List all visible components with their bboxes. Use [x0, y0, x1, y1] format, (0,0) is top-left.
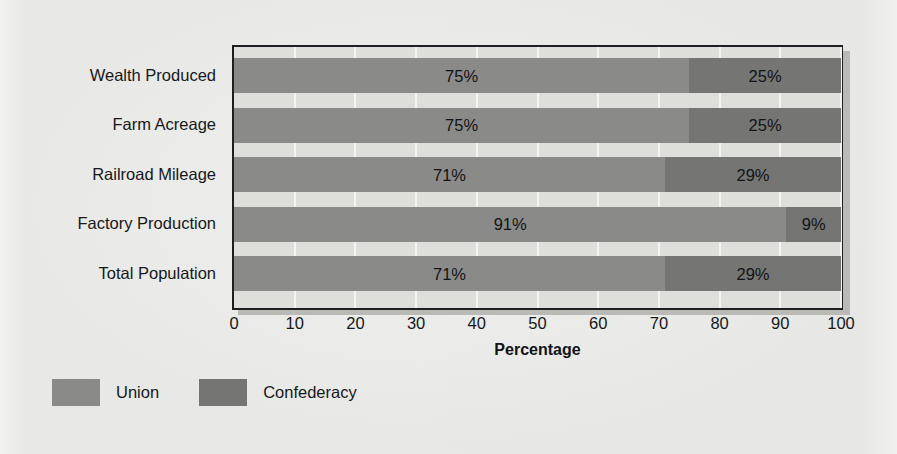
x-tick-label: 80 — [710, 315, 728, 332]
category-label-total-population: Total Population — [16, 265, 216, 282]
category-label-wealth-produced: Wealth Produced — [16, 67, 216, 84]
x-tick-label: 70 — [650, 315, 668, 332]
bar-segment-confederacy: 9% — [786, 207, 841, 242]
bar-value-label: 29% — [665, 166, 841, 183]
bar-segment-confederacy: 25% — [689, 108, 841, 143]
bar-value-label: 29% — [665, 265, 841, 282]
bar-segment-union: 75% — [234, 108, 689, 143]
legend-label: Union — [116, 384, 159, 401]
bar-value-label: 25% — [689, 67, 841, 84]
bar-row: 75%25% — [234, 58, 841, 93]
bar-segment-confederacy: 25% — [689, 58, 841, 93]
x-tick-label: 60 — [589, 315, 607, 332]
chart-legend: UnionConfederacy — [52, 375, 397, 409]
x-tick-label: 90 — [771, 315, 789, 332]
bar-segment-confederacy: 29% — [665, 157, 841, 192]
bar-row: 71%29% — [234, 256, 841, 291]
category-label-railroad-mileage: Railroad Mileage — [16, 166, 216, 183]
legend-swatch-confederacy — [199, 379, 247, 406]
bar-row: 71%29% — [234, 157, 841, 192]
x-tick-label: 40 — [468, 315, 486, 332]
bar-value-label: 71% — [234, 265, 665, 282]
category-axis-labels: Wealth ProducedFarm AcreageRailroad Mile… — [18, 52, 224, 304]
bar-segment-union: 71% — [234, 256, 665, 291]
bar-row: 75%25% — [234, 108, 841, 143]
bar-value-label: 75% — [234, 67, 689, 84]
bar-value-label: 91% — [234, 216, 786, 233]
bar-value-label: 71% — [234, 166, 665, 183]
bar-segment-union: 91% — [234, 207, 786, 242]
x-tick-label: 10 — [286, 315, 304, 332]
category-label-factory-production: Factory Production — [16, 215, 216, 232]
bar-value-label: 9% — [786, 216, 841, 233]
x-tick-label: 20 — [346, 315, 364, 332]
bar-segment-union: 75% — [234, 58, 689, 93]
x-tick-label: 0 — [229, 315, 238, 332]
bar-segment-union: 71% — [234, 157, 665, 192]
x-tick-label: 50 — [528, 315, 546, 332]
bar-value-label: 25% — [689, 117, 841, 134]
bar-series-group: 75%25%75%25%71%29%91%9%71%29% — [234, 47, 841, 308]
x-tick-label: 100 — [827, 315, 855, 332]
legend-label: Confederacy — [263, 384, 357, 401]
legend-item-union: Union — [52, 379, 159, 406]
bar-segment-confederacy: 29% — [665, 256, 841, 291]
category-label-farm-acreage: Farm Acreage — [16, 116, 216, 133]
plot-area: 75%25%75%25%71%29%91%9%71%29% — [232, 45, 843, 310]
legend-swatch-union — [52, 379, 100, 406]
x-axis-tick-labels: 0102030405060708090100 — [232, 315, 843, 339]
bar-row: 91%9% — [234, 207, 841, 242]
legend-item-confederacy: Confederacy — [199, 379, 357, 406]
x-tick-label: 30 — [407, 315, 425, 332]
x-axis-title: Percentage — [232, 342, 843, 358]
chart-page: Wealth ProducedFarm AcreageRailroad Mile… — [0, 0, 897, 454]
bar-value-label: 75% — [234, 117, 689, 134]
